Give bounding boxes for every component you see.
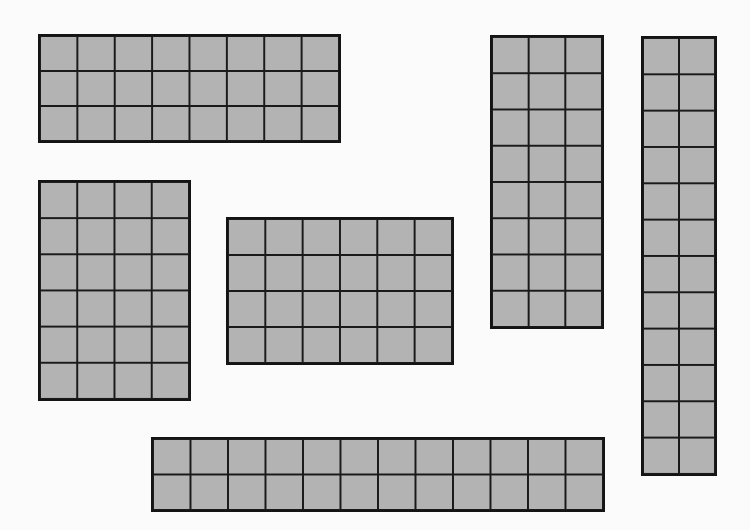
rectangle-array-12x2	[151, 437, 605, 512]
rectangle-array-2x12	[641, 36, 717, 476]
rectangle-array-6x4	[226, 217, 454, 365]
rectangle-array-4x6	[38, 180, 191, 401]
rectangle-array-3x8	[490, 35, 604, 329]
figure-canvas	[0, 0, 750, 530]
rectangle-array-8x3	[38, 34, 341, 143]
